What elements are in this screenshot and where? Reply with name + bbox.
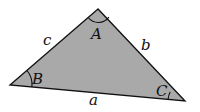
angle-label-A: A [89, 25, 102, 43]
angle-label-C: C [156, 82, 168, 100]
side-label-c: c [43, 31, 52, 49]
triangle-diagram: A B C a b c [0, 0, 200, 112]
side-label-a: a [89, 91, 98, 109]
angle-label-B: B [31, 70, 43, 88]
side-label-b: b [141, 36, 151, 54]
